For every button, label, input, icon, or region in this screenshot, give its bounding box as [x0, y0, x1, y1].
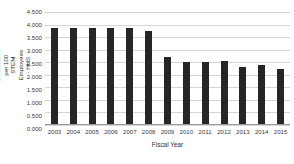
- x-axis-tick-label: 2015: [271, 127, 290, 139]
- y-axis-title: Invention Disclosures per 100 STEM Emplo…: [0, 0, 18, 130]
- bar-chart: Invention Disclosures per 100 STEM Emplo…: [0, 0, 294, 164]
- bar: [202, 62, 209, 125]
- bar: [70, 28, 77, 125]
- bar: [221, 61, 228, 125]
- x-axis-tick-label: 2008: [139, 127, 158, 139]
- bar-slot: [233, 12, 252, 125]
- bar-slot: [64, 12, 83, 125]
- bar: [239, 67, 246, 125]
- bars-layer: [45, 12, 290, 125]
- bar: [89, 28, 96, 125]
- x-axis-tick-label: 2014: [252, 127, 271, 139]
- y-axis-tick-labels: 4.5004.0003.5003.0002.5002.0001.5001.000…: [18, 12, 44, 129]
- y-axis-tick-label: 2.000: [27, 74, 42, 80]
- bar: [258, 65, 265, 125]
- x-axis-line: [45, 124, 290, 125]
- y-axis-tick-label: 2.500: [27, 61, 42, 67]
- bar: [51, 28, 58, 125]
- bar-slot: [83, 12, 102, 125]
- bar: [126, 28, 133, 125]
- bar-slot: [45, 12, 64, 125]
- y-axis-tick-label: 0.000: [27, 126, 42, 132]
- bar-slot: [158, 12, 177, 125]
- x-axis-tick-label: 2005: [83, 127, 102, 139]
- bar-slot: [139, 12, 158, 125]
- x-axis-tick-label: 2013: [233, 127, 252, 139]
- y-axis-tick-label: 4.000: [27, 22, 42, 28]
- x-axis-tick-label: 2011: [196, 127, 215, 139]
- bar-slot: [196, 12, 215, 125]
- plot-area: [45, 12, 290, 125]
- x-axis-tick-label: 2004: [64, 127, 83, 139]
- x-axis-tick-label: 2012: [215, 127, 234, 139]
- bar: [277, 69, 284, 126]
- x-axis-tick-labels: 2003200420052006200720082009201020112012…: [45, 127, 290, 139]
- bar-slot: [177, 12, 196, 125]
- x-axis-tick-label: 2009: [158, 127, 177, 139]
- x-axis-tick-label: 2007: [120, 127, 139, 139]
- bar-slot: [102, 12, 121, 125]
- y-axis-tick-label: 4.500: [27, 9, 42, 15]
- bar: [107, 28, 114, 125]
- x-axis-tick-label: 2010: [177, 127, 196, 139]
- y-axis-tick-label: 0.500: [27, 113, 42, 119]
- bar: [164, 57, 171, 125]
- x-axis-tick-label: 2003: [45, 127, 64, 139]
- y-axis-tick-label: 1.500: [27, 87, 42, 93]
- bar: [183, 62, 190, 125]
- bar-slot: [252, 12, 271, 125]
- bar-slot: [271, 12, 290, 125]
- bar-slot: [120, 12, 139, 125]
- y-axis-tick-label: 3.500: [27, 35, 42, 41]
- x-axis-tick-label: 2006: [102, 127, 121, 139]
- bar: [145, 31, 152, 125]
- y-axis-tick-label: 1.000: [27, 100, 42, 106]
- bar-slot: [215, 12, 234, 125]
- gridline: [45, 125, 290, 126]
- x-axis-title: Fiscal Year: [45, 141, 290, 149]
- y-axis-tick-label: 3.000: [27, 48, 42, 54]
